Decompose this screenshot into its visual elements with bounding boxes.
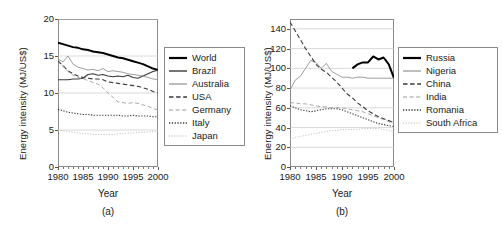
x-tick-mark <box>342 167 343 170</box>
legend-item-china[interactable]: China <box>402 77 493 90</box>
x-tick-mark <box>326 167 327 169</box>
y-tick-label: 10 <box>43 88 54 98</box>
x-tick-mark <box>83 167 84 170</box>
series-line-india <box>290 103 394 124</box>
series-line-germany <box>58 60 158 110</box>
y-tick-label: 40 <box>275 123 286 133</box>
legend-label: Brazil <box>192 66 216 76</box>
legend-line-swatch <box>168 118 188 128</box>
x-tick-mark <box>68 167 69 169</box>
x-tick-mark <box>63 167 64 169</box>
legend-item-nigeria[interactable]: Nigeria <box>402 64 493 77</box>
x-tick-mark <box>290 167 291 170</box>
y-tick-label: 20 <box>43 14 54 24</box>
x-tick-mark <box>58 167 59 170</box>
x-tick-mark <box>73 167 74 169</box>
legend-label: World <box>192 53 217 63</box>
legend-label: Japan <box>192 131 218 141</box>
legend-label: USA <box>192 92 212 102</box>
legend-line-swatch <box>402 118 422 128</box>
x-tick-mark <box>373 167 374 169</box>
x-tick-mark <box>88 167 89 169</box>
x-tick-mark <box>113 167 114 169</box>
legend-item-japan[interactable]: Japan <box>168 129 240 142</box>
legend-label: Romania <box>426 105 464 115</box>
legend-line-swatch <box>168 131 188 141</box>
x-tick-mark <box>358 167 359 169</box>
x-tick-mark <box>108 167 109 170</box>
y-tick-label: 15 <box>43 51 54 61</box>
y-tick-label: 100 <box>270 64 286 74</box>
legend-label: China <box>426 79 451 89</box>
y-tick-mark <box>287 49 290 50</box>
x-tick-label: 2000 <box>383 172 404 182</box>
x-tick-mark <box>143 167 144 169</box>
x-tick-mark <box>78 167 79 169</box>
x-tick-mark <box>158 167 159 170</box>
y-tick-label: 5 <box>49 125 54 135</box>
legend-label: Australia <box>192 79 229 89</box>
legend-item-russia[interactable]: Russia <box>402 51 493 64</box>
x-tick-mark <box>352 167 353 169</box>
legend-item-italy[interactable]: Italy <box>168 116 240 129</box>
x-tick-mark <box>332 167 333 169</box>
series-canvas-b <box>290 19 394 167</box>
legend-item-usa[interactable]: USA <box>168 90 240 103</box>
x-tick-mark <box>311 167 312 169</box>
panel-caption-a: (a) <box>58 206 158 217</box>
series-line-usa <box>58 61 158 93</box>
x-tick-mark <box>138 167 139 169</box>
y-tick-label: 80 <box>275 83 286 93</box>
x-tick-mark <box>378 167 379 169</box>
legend-item-romania[interactable]: Romania <box>402 103 493 116</box>
x-tick-mark <box>123 167 124 169</box>
x-tick-mark <box>347 167 348 169</box>
x-tick-mark <box>394 167 395 170</box>
legend-item-brazil[interactable]: Brazil <box>168 64 240 77</box>
legend-item-india[interactable]: India <box>402 90 493 103</box>
y-tick-mark <box>287 29 290 30</box>
series-line-south-africa <box>290 129 394 140</box>
series-line-italy <box>58 109 158 116</box>
y-tick-mark <box>55 56 58 57</box>
y-tick-label: 140 <box>270 24 286 34</box>
legend-a: WorldBrazilAustraliaUSAGermanyItalyJapan <box>164 47 245 146</box>
x-tick-mark <box>153 167 154 169</box>
legend-label: Russia <box>426 53 455 63</box>
x-tick-mark <box>389 167 390 169</box>
x-tick-mark <box>128 167 129 169</box>
x-axis-title-a: Year <box>58 188 158 199</box>
legend-item-world[interactable]: World <box>168 51 240 64</box>
x-tick-mark <box>316 167 317 170</box>
x-tick-mark <box>98 167 99 169</box>
x-tick-label: 1990 <box>97 172 118 182</box>
legend-line-swatch <box>168 79 188 89</box>
series-line-nigeria <box>290 60 394 90</box>
figure-energy-intensity: Energy intensity (MJ/US$) 05101520198019… <box>0 0 502 232</box>
legend-line-swatch <box>168 105 188 115</box>
y-tick-mark <box>287 88 290 89</box>
legend-line-swatch <box>168 92 188 102</box>
legend-line-swatch <box>402 79 422 89</box>
legend-item-germany[interactable]: Germany <box>168 103 240 116</box>
series-line-world <box>58 43 158 70</box>
y-tick-mark <box>287 147 290 148</box>
x-axis-title-b: Year <box>290 188 394 199</box>
legend-label: Nigeria <box>426 66 456 76</box>
legend-line-swatch <box>402 92 422 102</box>
legend-label: Italy <box>192 118 209 128</box>
x-tick-label: 1985 <box>305 172 326 182</box>
x-tick-label: 1990 <box>331 172 352 182</box>
legend-item-south-africa[interactable]: South Africa <box>402 116 493 129</box>
plot-area-a: 0510152019801985199019952000 Year (a) <box>58 19 158 167</box>
x-tick-label: 1985 <box>72 172 93 182</box>
x-tick-mark <box>118 167 119 169</box>
legend-line-swatch <box>168 66 188 76</box>
x-tick-mark <box>300 167 301 169</box>
y-tick-mark <box>287 128 290 129</box>
series-canvas-a <box>58 19 158 167</box>
x-tick-mark <box>295 167 296 169</box>
x-tick-mark <box>337 167 338 169</box>
legend-item-australia[interactable]: Australia <box>168 77 240 90</box>
legend-b: RussiaNigeriaChinaIndiaRomaniaSouth Afri… <box>398 47 498 133</box>
